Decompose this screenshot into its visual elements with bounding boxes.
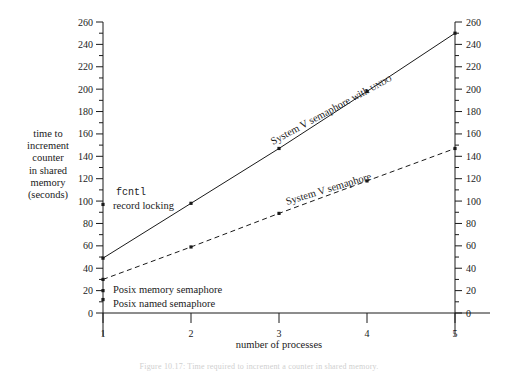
y-tick-label-right: 200 xyxy=(466,84,481,95)
x-axis-label: number of processes xyxy=(236,339,322,350)
annotation-posix-memory: Posix memory semaphore xyxy=(113,284,222,295)
y-tick-label-right: 20 xyxy=(466,285,476,296)
data-point xyxy=(277,147,280,150)
y-tick-label-left: 200 xyxy=(78,84,93,95)
chart-svg: 020406080100120140160180200220240260 020… xyxy=(0,0,518,376)
x-tick-label: 3 xyxy=(277,328,282,339)
y-tick-label-left: 260 xyxy=(78,17,93,28)
y-tick-label-left: 80 xyxy=(83,218,93,229)
y-tick-label-right: 220 xyxy=(466,61,481,72)
y-tick-label-left: 120 xyxy=(78,173,93,184)
data-point xyxy=(189,202,192,205)
data-point-single xyxy=(101,298,104,301)
y-tick-label-left: 60 xyxy=(83,240,93,251)
data-point xyxy=(101,257,104,260)
y-axis-right: 020406080100120140160180200220240260 xyxy=(455,17,481,319)
x-axis: 12345 xyxy=(101,313,458,339)
y-tick-label-left: 240 xyxy=(78,39,93,50)
y-tick-label-right: 160 xyxy=(466,128,481,139)
y-tick-label-left: 20 xyxy=(83,285,93,296)
y-tick-label-right: 80 xyxy=(466,218,476,229)
x-tick-label: 2 xyxy=(189,328,194,339)
y-axis-left: 020406080100120140160180200220240260 xyxy=(78,17,103,319)
y-tick-label-right: 40 xyxy=(466,263,476,274)
annotation-sysv-undo-main: System V semaphore with xyxy=(269,83,373,146)
figure-container: time toincrementcounterin sharedmemory(s… xyxy=(0,0,518,376)
data-point-single xyxy=(101,289,104,292)
y-tick-label-right: 120 xyxy=(466,173,481,184)
y-tick-label-right: 140 xyxy=(466,151,481,162)
data-point-single xyxy=(101,203,104,206)
y-tick-label-left: 100 xyxy=(78,196,93,207)
annotation-fcntl-text: record locking xyxy=(113,200,175,211)
y-tick-label-left: 0 xyxy=(88,308,93,319)
data-point xyxy=(277,212,280,215)
annotation-fcntl-mono: fcntl xyxy=(116,187,146,198)
annotation-sysv-undo: System V semaphore with UNDO xyxy=(269,72,394,147)
figure-caption: Figure 10.17: Time required to increment… xyxy=(0,362,518,371)
series-points-sysv xyxy=(101,147,456,281)
annotation-sysv-undo-small: UNDO xyxy=(369,74,394,93)
y-tick-label-left: 40 xyxy=(83,263,93,274)
y-tick-label-left: 160 xyxy=(78,128,93,139)
data-point xyxy=(453,32,456,35)
data-point xyxy=(189,245,192,248)
y-tick-label-right: 240 xyxy=(466,39,481,50)
y-tick-label-left: 140 xyxy=(78,151,93,162)
y-tick-label-right: 180 xyxy=(466,106,481,117)
annotation-posix-named: Posix named semaphore xyxy=(113,298,215,309)
y-tick-label-right: 60 xyxy=(466,240,476,251)
y-tick-label-left: 220 xyxy=(78,61,93,72)
annotation-sysv: System V semaphore xyxy=(284,170,373,207)
data-point xyxy=(101,278,104,281)
series-line-sysv-undo xyxy=(103,33,455,258)
x-tick-label: 4 xyxy=(365,328,370,339)
svg-text:System V semaphore with UNDO: System V semaphore with UNDO xyxy=(269,72,394,147)
y-tick-label-left: 180 xyxy=(78,106,93,117)
data-point xyxy=(453,147,456,150)
annotation-sysv-main: System V semaphore xyxy=(284,170,373,207)
y-tick-label-right: 100 xyxy=(466,196,481,207)
y-tick-label-right: 260 xyxy=(466,17,481,28)
